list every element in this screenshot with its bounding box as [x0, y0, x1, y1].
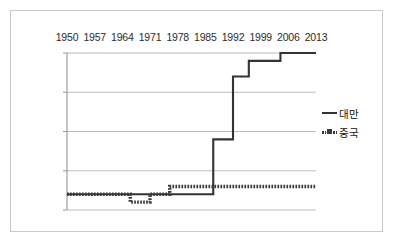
- legend-marker-solid-line-icon: [322, 108, 337, 118]
- chart-legend: 대만중국: [322, 106, 359, 144]
- legend-marker-dotted-square-line-icon: [322, 127, 337, 137]
- legend-label: 대만: [339, 106, 359, 121]
- chart-screenshot: 1950195719641971197819851992199920062013…: [0, 0, 395, 244]
- series-line-0: [67, 53, 316, 194]
- legend-item-중국[interactable]: 중국: [322, 125, 359, 139]
- legend-item-대만[interactable]: 대만: [322, 106, 359, 120]
- legend-label: 중국: [339, 125, 359, 140]
